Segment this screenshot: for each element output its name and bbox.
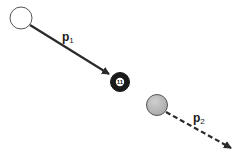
gray-ball: [147, 95, 168, 116]
svg-text:11: 11: [117, 79, 124, 85]
momentum-diagram: p1 11 p2: [0, 0, 245, 158]
eleven-ball: 11: [111, 73, 130, 92]
cue-ball: [10, 7, 32, 29]
p2-label: p2: [193, 111, 205, 126]
p1-label: p1: [62, 30, 74, 45]
p1-momentum-arrow: [30, 25, 109, 74]
